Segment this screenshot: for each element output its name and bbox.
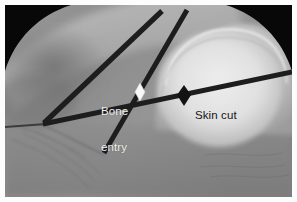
radiograph-canvas [5, 5, 292, 197]
film-grain [5, 5, 292, 197]
fluoroscopy-figure: Bone entry Skin cut [0, 0, 297, 202]
radiograph-image: Bone entry Skin cut [5, 5, 292, 197]
radiograph-content [5, 5, 292, 197]
